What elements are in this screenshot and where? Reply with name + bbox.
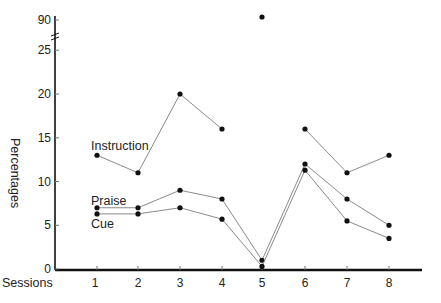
data-point: [177, 91, 182, 96]
series-line: [97, 164, 389, 260]
data-point: [386, 236, 391, 241]
data-point: [344, 218, 349, 223]
data-point: [302, 161, 307, 166]
x-tick-label: 2: [135, 276, 142, 290]
data-point: [344, 196, 349, 201]
data-point: [219, 196, 224, 201]
y-tick-label: 10: [38, 175, 52, 189]
x-tick-label: 4: [219, 276, 226, 290]
data-point: [259, 14, 264, 19]
data-point: [386, 153, 391, 158]
y-tick-label: 0: [44, 262, 51, 276]
x-tick-label: 8: [386, 276, 393, 290]
data-point: [135, 205, 140, 210]
y-tick-label: 25: [38, 43, 52, 57]
series-line: [305, 129, 389, 173]
x-tick-label: 7: [344, 276, 351, 290]
y-tick-label: 90: [38, 13, 52, 27]
x-tick-label: 5: [259, 276, 266, 290]
x-tick-label: 6: [302, 276, 309, 290]
series-label-cue: Cue: [91, 217, 114, 231]
data-point: [94, 211, 99, 216]
data-point: [219, 217, 224, 222]
series-line: [97, 94, 222, 173]
y-tick-label: 15: [38, 131, 52, 145]
data-point: [344, 170, 349, 175]
data-point: [177, 188, 182, 193]
data-point: [302, 168, 307, 173]
y-tick-label: 20: [38, 87, 52, 101]
series-line: [97, 170, 389, 266]
x-tick-label: 3: [177, 276, 184, 290]
series-cue: [94, 168, 391, 269]
y-tick-label: 5: [44, 218, 51, 232]
data-point: [177, 205, 182, 210]
data-point: [135, 170, 140, 175]
data-point: [386, 223, 391, 228]
line-chart: 051015202590 12345678 Sessions Percentag…: [0, 0, 441, 303]
data-point: [219, 126, 224, 131]
data-point: [94, 153, 99, 158]
x-axis-title: Sessions: [2, 276, 53, 290]
series-label-praise: Praise: [91, 194, 126, 208]
y-axis-title: Percentages: [8, 138, 22, 208]
x-tick-label: 1: [92, 276, 99, 290]
data-point: [135, 211, 140, 216]
series-label-instruction: Instruction: [91, 139, 149, 153]
data-point: [259, 264, 264, 269]
data-point: [302, 126, 307, 131]
